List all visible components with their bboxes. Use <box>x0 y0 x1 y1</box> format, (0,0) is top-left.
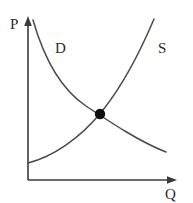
y-axis-label: P <box>10 16 18 32</box>
supply-demand-figure: P Q D S <box>0 0 193 203</box>
equilibrium-point-dot <box>95 109 105 119</box>
x-axis-label: Q <box>165 186 176 202</box>
supply-curve <box>28 19 154 163</box>
x-axis-arrow-icon <box>167 176 177 184</box>
supply-curve-label: S <box>158 40 166 56</box>
demand-curve-label: D <box>55 40 66 56</box>
chart-canvas: P Q D S <box>0 0 193 203</box>
y-axis-arrow-icon <box>24 16 32 26</box>
demand-curve <box>33 20 166 152</box>
